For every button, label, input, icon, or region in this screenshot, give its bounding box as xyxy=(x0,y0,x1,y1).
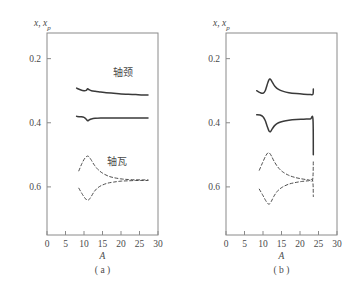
figure-container: x, xp0.60.40.2051015202530A( a )轴颈轴瓦 x, … xyxy=(0,0,357,290)
y-tick-label: 0.2 xyxy=(29,54,41,64)
y-tick-label: 0.2 xyxy=(208,54,220,64)
plot-svg: x, xp0.60.40.2051015202530A( b ) xyxy=(179,0,357,290)
x-tick-label: 15 xyxy=(98,239,108,249)
panel-caption: ( a ) xyxy=(95,265,110,276)
x-tick-label: 20 xyxy=(116,239,126,249)
plot-svg: x, xp0.60.40.2051015202530A( a )轴颈轴瓦 xyxy=(0,0,178,290)
x-axis-label: A xyxy=(278,251,285,261)
plot-frame xyxy=(47,33,158,235)
curve-bearing-upper xyxy=(259,153,313,182)
curve-bearing-lower xyxy=(259,179,313,204)
x-tick-label: 25 xyxy=(135,239,145,249)
y-tick-label: 0.6 xyxy=(29,182,41,192)
y-tick-label: 0.4 xyxy=(208,118,220,128)
plot-frame xyxy=(226,33,337,235)
x-tick-label: 10 xyxy=(79,239,89,249)
chart-panel-b: x, xp0.60.40.2051015202530A( b ) xyxy=(179,0,357,290)
curve-bearing-lower xyxy=(79,180,148,200)
y-tick-label: 0.6 xyxy=(208,182,220,192)
chart-panel-a: x, xp0.60.40.2051015202530A( a )轴颈轴瓦 xyxy=(0,0,178,290)
curve-journal-upper xyxy=(257,79,314,95)
curve-journal-upper xyxy=(77,88,148,95)
x-tick-label: 5 xyxy=(63,239,68,249)
y-tick-label: 0.4 xyxy=(29,118,41,128)
x-tick-label: 15 xyxy=(277,239,287,249)
y-axis-label: x, xp xyxy=(212,18,230,32)
y-axis-label: x, xp xyxy=(33,18,51,32)
x-tick-label: 30 xyxy=(332,239,342,249)
x-tick-label: 0 xyxy=(224,239,229,249)
x-tick-label: 10 xyxy=(258,239,268,249)
curve-journal-lower xyxy=(77,116,148,120)
x-tick-label: 5 xyxy=(242,239,247,249)
x-tick-label: 20 xyxy=(295,239,305,249)
curve-annotation: 轴瓦 xyxy=(107,155,127,167)
x-tick-label: 30 xyxy=(153,239,163,249)
panel-caption: ( b ) xyxy=(274,265,290,276)
x-axis-label: A xyxy=(99,251,106,261)
curve-journal-lower xyxy=(257,115,314,155)
curve-annotation: 轴颈 xyxy=(113,66,133,78)
x-tick-label: 0 xyxy=(45,239,50,249)
x-tick-label: 25 xyxy=(314,239,324,249)
